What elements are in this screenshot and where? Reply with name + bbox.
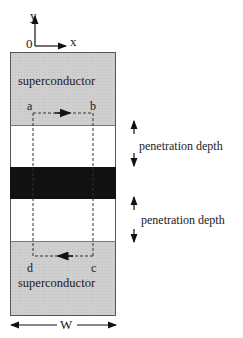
penetration-depth-label-bottom: penetration depth <box>141 214 225 226</box>
diagram-lines <box>0 0 243 338</box>
width-label: W <box>60 319 72 331</box>
integration-loop <box>33 113 93 256</box>
coordinate-axes-icon <box>35 16 66 46</box>
penetration-depth-label-top: penetration depth <box>139 140 223 152</box>
